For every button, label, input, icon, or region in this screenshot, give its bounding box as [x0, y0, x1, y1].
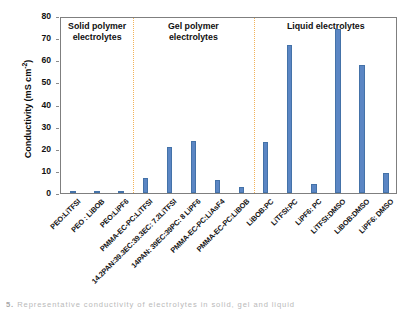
y-tick-mark [56, 172, 59, 173]
y-tick-label: 70 [29, 34, 51, 43]
y-tick-mark [56, 39, 59, 40]
y-tick-label: 10 [29, 167, 51, 176]
y-tick-mark [56, 128, 59, 129]
y-tick-label: 40 [29, 101, 51, 110]
bar [94, 191, 100, 193]
region-divider [254, 18, 255, 193]
figure-caption: 5. Representative conductivity of electr… [6, 300, 404, 309]
figure-caption-text: Representative conductivity of electroly… [17, 300, 295, 309]
y-tick-mark [56, 106, 59, 107]
figure-caption-number: 5. [6, 300, 14, 309]
bar [167, 147, 173, 193]
y-axis-title-exponent: -2 [21, 63, 28, 69]
bar [70, 191, 76, 193]
bar [191, 141, 197, 193]
bar [263, 142, 269, 193]
y-tick-label: 0 [29, 189, 51, 198]
bar [359, 65, 365, 193]
y-tick-mark [56, 17, 59, 18]
bar [215, 180, 221, 193]
region-caption: Liquid electrolytes [254, 21, 398, 32]
bar [118, 191, 124, 193]
region-caption-line1: Solid polymer [61, 21, 133, 32]
region-divider [133, 18, 134, 193]
y-tick-label: 50 [29, 78, 51, 87]
y-tick-label: 60 [29, 56, 51, 65]
y-tick-mark [56, 194, 59, 195]
region-caption-line2: electrolytes [61, 32, 133, 43]
bar [143, 178, 149, 193]
region-caption: Solid polymerelectrolytes [61, 21, 133, 43]
region-caption: Gel polymerelectrolytes [133, 21, 253, 43]
region-caption-line1: Liquid electrolytes [254, 21, 398, 32]
region-caption-line2: electrolytes [133, 32, 253, 43]
plot-area: Solid polymerelectrolytesGel polymerelec… [60, 17, 397, 194]
plot-inner: Solid polymerelectrolytesGel polymerelec… [61, 18, 396, 193]
y-tick-label: 80 [29, 12, 51, 21]
y-tick-mark [56, 150, 59, 151]
bar [383, 173, 389, 193]
region-caption-line1: Gel polymer [133, 21, 253, 32]
figure-bar-chart: Conductivity (mS cm-2) 01020304050607080… [0, 0, 408, 314]
bar [311, 184, 317, 193]
y-tick-mark [56, 83, 59, 84]
y-tick-label: 30 [29, 123, 51, 132]
y-tick-label: 20 [29, 145, 51, 154]
y-tick-mark [56, 61, 59, 62]
bar [239, 187, 245, 193]
bar [335, 29, 341, 193]
bar [287, 45, 293, 193]
